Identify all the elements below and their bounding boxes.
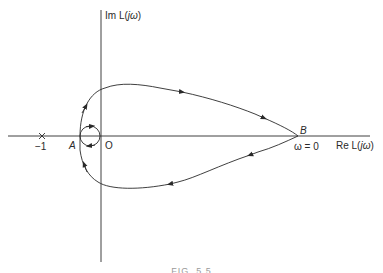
real-label-suffix: ) — [370, 140, 373, 151]
imag-label-suffix: ) — [138, 10, 141, 21]
imag-label-var: jω — [128, 10, 138, 21]
imaginary-axis-label: Im L(jω) — [105, 10, 141, 21]
lower-branch-arrow-1 — [250, 152, 258, 155]
upper-branch-curve-2 — [182, 92, 255, 114]
critical-point-label: −1 — [35, 141, 46, 152]
lower-branch-arrow-2 — [170, 182, 178, 184]
real-label-var: jω — [360, 140, 370, 151]
point-a-label: A — [69, 140, 76, 151]
point-o-label: O — [105, 140, 113, 151]
upper-branch-curve-3 — [264, 118, 298, 136]
real-label-prefix: Re L( — [336, 140, 360, 151]
upper-branch-curve — [80, 84, 160, 136]
lower-branch-curve-3 — [80, 136, 170, 188]
small-loop-arrow-top — [86, 126, 92, 127]
omega-zero-label: ω = 0 — [294, 141, 319, 152]
imag-label-prefix: Im L( — [105, 10, 128, 21]
lower-branch-curve-2 — [178, 155, 250, 182]
upper-left-arrow — [82, 106, 86, 113]
small-loop-arrow-bottom — [89, 145, 95, 146]
point-b-label: B — [300, 125, 307, 136]
lower-left-arrow — [84, 164, 87, 172]
real-axis-label: Re L(jω) — [336, 140, 374, 151]
upper-branch-arrow-2 — [255, 114, 264, 118]
nyquist-diagram — [0, 0, 383, 273]
figure-caption: FIG. 5.5 — [0, 266, 383, 273]
lower-branch-curve — [258, 136, 298, 152]
upper-branch-arrow-1 — [160, 88, 182, 92]
